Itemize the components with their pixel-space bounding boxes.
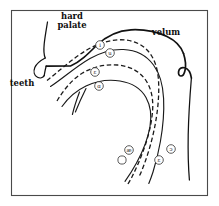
label-teeth: teeth <box>10 78 34 88</box>
vowel-marker-unlabeled <box>118 156 126 164</box>
vowel-marker-i-symbol: i <box>99 42 101 48</box>
vowel-marker-u-symbol: u <box>108 50 112 56</box>
vowel-marker-open-o: ɔ <box>167 145 176 154</box>
vowel-marker-ash: æ <box>125 146 134 155</box>
vowel-marker-epsilon-lower: ɛ <box>155 156 164 165</box>
vowel-marker-open-o-symbol: ɔ <box>169 146 172 152</box>
vowel-marker-i: i <box>96 41 105 50</box>
label-velum: velum <box>151 27 180 37</box>
vocal-tract-figure: hard palate velum teeth i u ɛ ɑ æ <box>0 0 219 206</box>
vowel-marker-ash-symbol: æ <box>126 147 131 153</box>
vowel-marker-alpha: ɑ <box>95 82 104 91</box>
vowel-marker-epsilon: ɛ <box>91 68 100 77</box>
label-hard-palate-line2: palate <box>57 20 86 30</box>
vowel-marker-unlabeled-circle <box>118 156 126 164</box>
figure-frame <box>12 11 208 196</box>
vowel-marker-epsilon-lower-symbol: ɛ <box>158 157 161 163</box>
vowel-marker-alpha-symbol: ɑ <box>97 83 101 89</box>
vocal-tract-diagram: hard palate velum teeth i u ɛ ɑ æ <box>0 0 219 206</box>
vowel-marker-epsilon-symbol: ɛ <box>94 69 97 75</box>
vowel-marker-u: u <box>106 49 115 58</box>
